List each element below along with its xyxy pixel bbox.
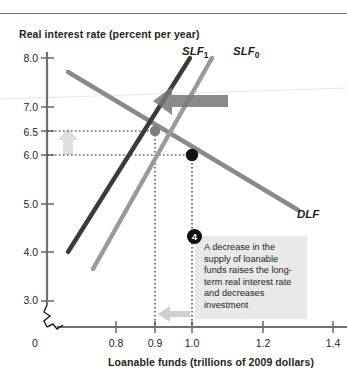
curve-label-dlf: DLF [297, 208, 319, 220]
original-equilibrium-point [186, 149, 198, 161]
curve-label-slf1: SLF1 [182, 45, 208, 60]
axis-break-vertical [44, 305, 50, 327]
chart-canvas [0, 0, 347, 378]
curve-label-slf1-sub: 1 [204, 50, 209, 60]
curve-label-slf1-text: SLF [182, 45, 204, 57]
interest-rate-rise-arrow [58, 128, 78, 155]
axis-break-horizontal [47, 324, 63, 329]
callout-number-badge: 4 [187, 229, 202, 244]
funds-decrease-arrow [158, 306, 190, 322]
curve-label-slf0: SLF0 [233, 45, 259, 60]
supply-shift-arrow [153, 87, 228, 115]
new-equilibrium-point [150, 126, 160, 136]
callout-text: A decrease in the supply of loanable fun… [204, 242, 300, 312]
loanable-funds-chart: Real interest rate (percent per year) Lo… [0, 0, 347, 378]
curve-label-slf0-text: SLF [233, 45, 255, 57]
curve-label-slf0-sub: 0 [255, 50, 260, 60]
callout-box: A decrease in the supply of loanable fun… [195, 236, 307, 319]
